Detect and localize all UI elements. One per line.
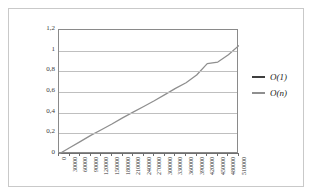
- plot-area: [58, 29, 238, 153]
- x-axis-tick: [206, 153, 207, 156]
- x-axis-tick: [79, 153, 80, 156]
- x-axis-tick: [143, 153, 144, 156]
- x-axis-tick: [100, 153, 101, 156]
- x-axis-tick: [217, 153, 218, 156]
- x-axis-tick-label: 360000: [188, 157, 194, 175]
- chart-screenshot: 00,20,40,60,811,2 0300006000090000120000…: [0, 0, 312, 195]
- legend-label: O(n): [270, 88, 287, 98]
- y-axis-tick-label: 1,2: [46, 25, 55, 32]
- y-axis-tick-label: 0: [52, 149, 56, 156]
- x-axis-tick: [69, 153, 70, 156]
- x-axis-tick-label: 300000: [167, 157, 173, 175]
- gridline: [59, 133, 237, 134]
- y-axis-tick-labels: 00,20,40,60,811,2: [27, 29, 55, 153]
- x-axis-tick-label: 330000: [177, 157, 183, 175]
- y-axis-tick-label: 0,4: [46, 108, 55, 115]
- legend-item: O(n): [252, 85, 308, 101]
- gridline: [59, 92, 237, 93]
- x-axis-tick: [185, 153, 186, 156]
- legend-item: O(1): [252, 69, 308, 85]
- x-axis-tick: [132, 153, 133, 156]
- y-axis-tick-label: 0,6: [46, 87, 55, 94]
- x-axis-tick: [122, 153, 123, 156]
- x-axis-tick: [227, 153, 228, 156]
- x-axis-tick: [196, 153, 197, 156]
- x-axis-tick: [238, 153, 239, 156]
- gridline: [59, 71, 237, 72]
- gridline: [59, 51, 237, 52]
- series-line: [59, 46, 239, 155]
- x-axis-tick-label: 420000: [209, 157, 215, 175]
- x-axis-tick: [164, 153, 165, 156]
- x-axis-tick-label: 60000: [82, 157, 88, 172]
- y-axis-tick-label: 0,2: [46, 128, 55, 135]
- x-axis-tick-label: 0: [61, 157, 67, 160]
- x-axis-tick-label: 510000: [241, 157, 247, 175]
- chart-legend: O(1)O(n): [252, 69, 308, 101]
- chart-frame: 00,20,40,60,811,2 0300006000090000120000…: [8, 8, 304, 187]
- x-axis-tick-label: 210000: [135, 157, 141, 175]
- x-axis-tick: [111, 153, 112, 156]
- legend-label: O(1): [270, 72, 287, 82]
- y-axis-tick-label: 0,8: [46, 66, 55, 73]
- x-axis-tick-label: 240000: [146, 157, 152, 175]
- x-axis-tick-label: 150000: [114, 157, 120, 175]
- x-axis-tick-label: 270000: [156, 157, 162, 175]
- x-axis-tick-label: 120000: [103, 157, 109, 175]
- x-axis-tick-label: 450000: [220, 157, 226, 175]
- x-axis-tick-label: 90000: [93, 157, 99, 172]
- y-axis-tick-label: 1: [52, 46, 56, 53]
- gridline: [59, 113, 237, 114]
- x-axis-tick: [153, 153, 154, 156]
- x-axis-tick-label: 180000: [125, 157, 131, 175]
- legend-color-swatch: [252, 92, 265, 94]
- x-axis-tick: [58, 153, 59, 156]
- x-axis-tick-labels: 0300006000090000120000150000180000210000…: [58, 153, 239, 195]
- x-axis-tick: [90, 153, 91, 156]
- x-axis-tick-label: 480000: [230, 157, 236, 175]
- x-axis-tick-label: 390000: [199, 157, 205, 175]
- x-axis-tick-label: 30000: [72, 157, 78, 172]
- legend-color-swatch: [252, 76, 265, 78]
- x-axis-tick: [174, 153, 175, 156]
